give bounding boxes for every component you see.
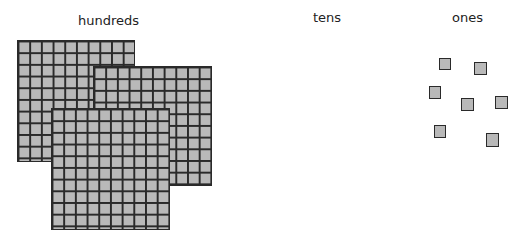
tens-label: tens: [313, 10, 341, 25]
one-cube-4: [461, 98, 474, 111]
ones-label: ones: [452, 10, 483, 25]
one-cube-1: [439, 58, 451, 70]
one-cube-6: [434, 125, 446, 138]
one-cube-3: [429, 86, 441, 99]
hundreds-label: hundreds: [78, 13, 139, 28]
one-cube-2: [474, 62, 487, 75]
one-cube-7: [486, 133, 499, 147]
one-cube-5: [495, 96, 508, 109]
hundred-block-3: [51, 108, 170, 230]
